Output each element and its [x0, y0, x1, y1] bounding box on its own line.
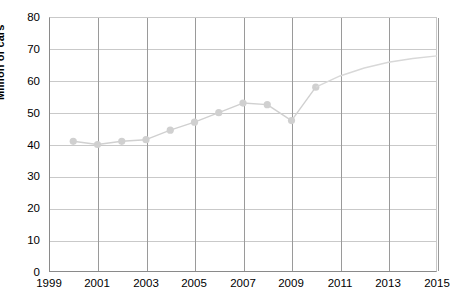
- x-tick-2003: 2003: [123, 277, 169, 289]
- y-tick-80: 80: [0, 11, 40, 23]
- gridline-2011: [341, 18, 342, 271]
- gridline-2013: [389, 18, 390, 271]
- line-chart: Million of cars 80 70 60 50 40 30 20 10 …: [0, 0, 464, 304]
- x-tick-2009: 2009: [268, 277, 314, 289]
- x-tick-2007: 2007: [220, 277, 266, 289]
- y-tick-30: 30: [0, 170, 40, 182]
- y-axis-tick-labels: 80 70 60 50 40 30 20 10 0: [0, 0, 45, 304]
- plot-area: [49, 17, 437, 272]
- x-tick-2013: 2013: [365, 277, 411, 289]
- gridline-2009: [292, 18, 293, 271]
- gridline-60: [50, 81, 436, 82]
- gridline-2015: [438, 18, 439, 271]
- gridline-20: [50, 209, 436, 210]
- y-tick-50: 50: [0, 107, 40, 119]
- x-tick-2005: 2005: [171, 277, 217, 289]
- y-tick-40: 40: [0, 139, 40, 151]
- gridline-2005: [195, 18, 196, 271]
- gridline-40: [50, 145, 436, 146]
- x-tick-2011: 2011: [317, 277, 363, 289]
- x-tick-2001: 2001: [74, 277, 120, 289]
- y-tick-10: 10: [0, 234, 40, 246]
- gridline-70: [50, 49, 436, 50]
- y-tick-60: 60: [0, 75, 40, 87]
- gridline-2003: [147, 18, 148, 271]
- gridline-10: [50, 241, 436, 242]
- y-tick-20: 20: [0, 202, 40, 214]
- gridline-30: [50, 177, 436, 178]
- gridline-50: [50, 113, 436, 114]
- x-tick-2015: 2015: [414, 277, 460, 289]
- gridline-2001: [98, 18, 99, 271]
- y-tick-70: 70: [0, 43, 40, 55]
- x-tick-1999: 1999: [26, 277, 72, 289]
- gridline-2007: [244, 18, 245, 271]
